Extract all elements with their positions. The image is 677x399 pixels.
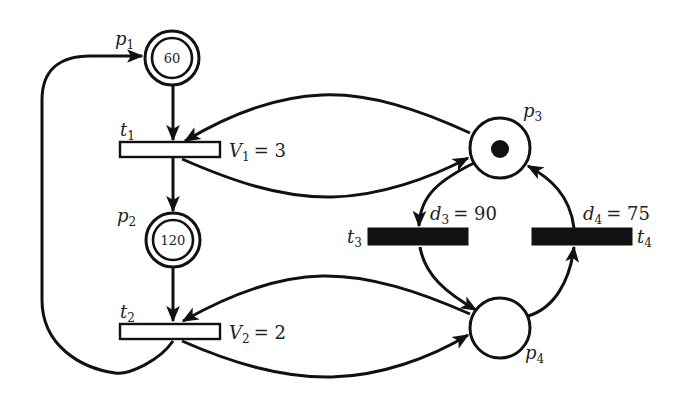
arc-t3-p4 [420,247,476,310]
transition-t4: t4 d4= 75 [532,203,652,250]
place-p4-label: p4 [525,342,545,366]
arc-t1-p3 [182,158,468,197]
transition-t2-label: t2 [120,301,135,325]
transition-t1: t1 V1= 3 [120,119,286,164]
transition-t3-param: d3= 90 [430,203,497,227]
arc-t4-p3 [528,166,574,228]
transition-t1-label: t1 [120,119,135,143]
place-p3-label: p3 [523,100,542,124]
place-p2-value: 120 [161,233,186,248]
transition-t3-label: t3 [347,226,362,250]
petri-net-diagram: 60 p1 120 p2 p3 p4 t1 V1= 3 t2 V2= 2 t3 … [0,0,677,399]
place-p1-value: 60 [164,51,181,66]
arc-p4-t2 [183,276,470,321]
transition-t2-param: V2= 2 [229,322,286,346]
place-p4: p4 [470,298,545,366]
place-p1-label: p1 [115,28,134,52]
token-icon [491,140,509,158]
transition-t4-label: t4 [637,226,652,250]
arc-p4-t4 [528,247,574,316]
transition-t4-param: d4= 75 [583,203,650,227]
transition-t2: t2 V2= 2 [120,301,286,346]
transition-t1-param: V1= 3 [229,140,286,164]
place-p2: 120 p2 [117,205,200,267]
arc-p3-t1 [185,95,470,141]
arc-t2-p4 [182,335,468,377]
place-p2-label: p2 [117,205,136,229]
